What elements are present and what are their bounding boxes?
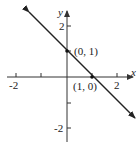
y-tick-label-neg2: -2 [54, 123, 63, 134]
point-1-0 [90, 75, 94, 79]
point-label-1-0: (1, 0) [73, 81, 97, 92]
line-graph: y x 2 -2 -2 2 (0, 1) (1, 0) [0, 0, 140, 144]
y-axis-label: y [58, 7, 63, 18]
x-axis-label: x [131, 67, 136, 78]
graph-line [29, 12, 135, 118]
x-tick-label-neg2: -2 [9, 80, 18, 91]
x-tick-label-2: 2 [114, 80, 120, 91]
y-tick-label-2: 2 [59, 21, 65, 32]
point-label-0-1: (0, 1) [74, 46, 98, 57]
graph-canvas [0, 0, 140, 144]
point-0-1 [65, 49, 69, 53]
